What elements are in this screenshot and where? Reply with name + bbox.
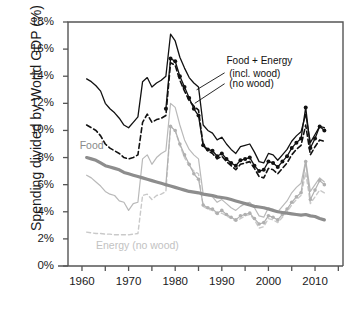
series-marker [308,146,312,150]
series-marker [211,207,215,211]
series-marker [206,147,210,151]
annotation-energy-no-wood-label: Energy (no wood) [96,239,179,251]
series-marker [322,128,326,132]
series-marker [290,200,294,204]
series-marker [257,169,261,173]
series-marker [201,143,205,147]
y-tick-label: 8% [20,151,54,163]
series-marker [220,209,224,213]
series-marker [224,157,228,161]
series-marker [173,129,177,133]
series-marker [178,74,182,78]
series-marker [197,114,201,118]
series-marker [243,157,247,161]
series-line [87,63,325,178]
series-marker [299,191,303,195]
series-marker [323,183,327,187]
series-marker [229,161,233,165]
series-marker [183,85,187,89]
series-marker [252,164,256,168]
series-marker [225,213,229,217]
series-line [166,126,324,224]
series-marker [290,146,294,150]
annotation-leader-line [197,73,225,90]
series-marker [187,96,191,100]
series-marker [243,213,247,217]
series-marker [304,160,308,164]
chart-root: Spending divided by World GDP (%) 0%2%4%… [0,0,359,312]
series-marker [215,211,219,215]
series-line [87,126,325,234]
y-tick-label: 16% [20,42,54,54]
series-marker [234,218,238,222]
series-marker [173,59,177,63]
series-marker [220,151,224,155]
series-marker [299,137,303,141]
series-marker [276,218,280,222]
series-marker [294,141,298,145]
series-marker [210,149,214,153]
series-line [87,158,325,220]
series-marker [285,207,289,211]
y-tick-label: 4% [20,205,54,217]
annotation-food-energy-title: Food + Energy [226,55,292,66]
series-marker [257,222,261,226]
series-marker [248,156,252,160]
series-marker [183,153,187,157]
y-tick-label: 6% [20,178,54,190]
x-tick-label: 2010 [295,275,335,287]
series-marker [318,179,322,183]
series-marker [178,142,182,146]
x-tick-label: 1960 [62,275,102,287]
series-marker [295,195,299,199]
series-marker [169,57,173,61]
series-marker [313,137,317,141]
series-marker [309,198,313,202]
annotation-food-label: Food [80,139,104,151]
series-line [87,34,325,163]
y-tick-label: 0% [20,259,54,271]
series-marker [285,154,289,158]
y-tick-label: 14% [20,69,54,81]
series-marker [234,164,238,168]
y-tick-label: 18% [20,15,54,27]
series-marker [262,168,266,172]
series-marker [313,188,317,192]
series-marker [266,160,270,164]
series-marker [248,211,252,215]
series-marker [318,124,322,128]
plot-area: 0%2%4%6%8%10%12%14%16%18%196019701980199… [0,0,359,312]
series-marker [238,158,242,162]
x-tick-label: 1990 [202,275,242,287]
series-marker [271,161,275,165]
series-marker [206,206,210,210]
series-marker [276,165,280,169]
x-tick-label: 1970 [109,275,149,287]
series-marker [164,107,168,111]
series-marker [187,163,191,167]
series-marker [271,215,275,219]
y-tick-label: 2% [20,232,54,244]
series-marker [201,203,205,207]
series-marker [169,125,173,129]
series-marker [239,214,243,218]
annotation-food-energy-no-wood: (no wood) [229,78,273,89]
y-tick-label: 10% [20,123,54,135]
plot-frame [68,22,343,266]
series-marker [253,217,257,221]
series-marker [267,214,271,218]
series-marker [192,172,196,176]
series-marker [280,160,284,164]
x-tick-label: 1980 [155,275,195,287]
annotation-food-energy-incl-wood: (incl. wood) [229,68,280,79]
series-marker [262,221,266,225]
series-marker [304,105,308,109]
series-marker [197,177,201,181]
y-tick-label: 12% [20,96,54,108]
series-marker [229,215,233,219]
series-marker [192,107,196,111]
x-tick-label: 2000 [248,275,288,287]
series-marker [215,154,219,158]
